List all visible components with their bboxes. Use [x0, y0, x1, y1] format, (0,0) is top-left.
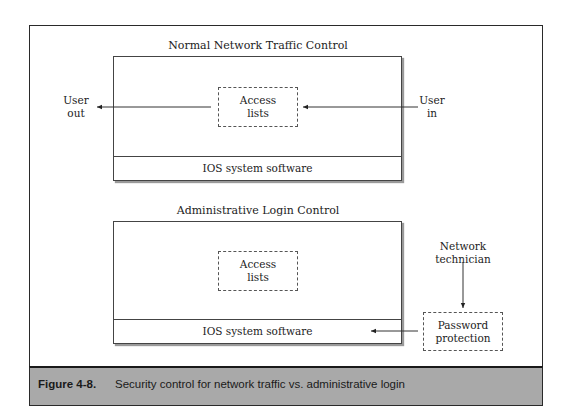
password-line2: protection: [435, 332, 490, 345]
network-technician-label: Network technician: [423, 240, 503, 266]
access-lists-box-admin: Access lists: [218, 251, 298, 291]
user-out-line2: out: [58, 107, 94, 120]
password-protection-box: Password protection: [423, 312, 503, 351]
access-lists-line1: Access: [240, 94, 276, 107]
user-in-line1: User: [414, 94, 450, 107]
user-in-line2: in: [414, 107, 450, 120]
figure-number: Figure 4-8.: [38, 378, 96, 390]
user-in-label: User in: [414, 94, 450, 120]
normal-traffic-title: Normal Network Traffic Control: [113, 39, 403, 52]
figure-caption: Figure 4-8. Security control for network…: [29, 366, 543, 406]
access-lists-line1: Access: [240, 258, 276, 271]
access-lists-line2: lists: [247, 107, 269, 120]
figure-caption-text: Security control for network traffic vs.…: [115, 378, 405, 390]
password-line1: Password: [438, 319, 489, 332]
access-lists-box-normal: Access lists: [218, 87, 298, 127]
technician-line2: technician: [423, 253, 503, 266]
admin-login-title: Administrative Login Control: [113, 204, 403, 217]
ios-system-software-bar: IOS system software: [114, 319, 401, 343]
technician-line1: Network: [423, 240, 503, 253]
access-lists-line2: lists: [247, 271, 269, 284]
ios-system-software-bar: IOS system software: [114, 156, 401, 180]
user-out-line1: User: [58, 94, 94, 107]
user-out-label: User out: [58, 94, 94, 120]
